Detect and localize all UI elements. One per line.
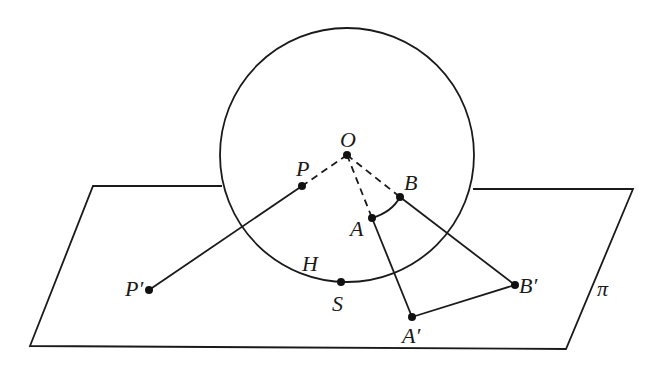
label-A-prime: A′	[400, 323, 421, 348]
stereographic-projection-diagram: O P P′ A A′ B B′ S H π	[0, 0, 660, 375]
point-P	[298, 182, 306, 190]
dashed-rays	[302, 155, 400, 218]
label-B-prime: B′	[519, 273, 538, 298]
point-A-prime	[408, 313, 416, 321]
labels: O P P′ A A′ B B′ S H π	[124, 127, 609, 348]
label-A: A	[348, 216, 364, 241]
label-O: O	[340, 127, 356, 152]
label-S: S	[332, 291, 343, 316]
point-S	[337, 278, 345, 286]
point-A	[368, 214, 376, 222]
line-B-Bprime	[400, 197, 515, 285]
label-P: P	[295, 156, 309, 181]
arc-A-B	[372, 197, 400, 218]
point-B	[396, 193, 404, 201]
line-P-Pprime	[149, 186, 302, 290]
plane-edge-left-top	[30, 186, 633, 349]
ray-O-B	[347, 155, 400, 197]
point-B-prime	[511, 281, 519, 289]
label-H: H	[301, 251, 319, 276]
point-O	[343, 151, 351, 159]
label-B: B	[404, 170, 417, 195]
label-P-prime: P′	[124, 276, 144, 301]
label-plane-pi: π	[597, 276, 609, 301]
point-P-prime	[145, 286, 153, 294]
plane-pi	[30, 186, 633, 349]
line-Aprime-Bprime	[412, 285, 515, 317]
